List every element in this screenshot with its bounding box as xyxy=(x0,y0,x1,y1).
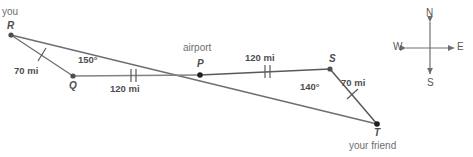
point-S xyxy=(327,66,332,71)
point-label-Q: Q xyxy=(69,81,77,91)
caption-you: you xyxy=(2,7,18,17)
compass-label-east: E xyxy=(457,42,464,52)
tick-mark-RQ xyxy=(38,48,46,61)
point-label-T: T xyxy=(374,128,380,138)
point-label-S: S xyxy=(329,54,336,64)
point-label-P: P xyxy=(197,59,204,69)
caption-airport: airport xyxy=(183,43,211,53)
point-R xyxy=(8,32,13,37)
measure-label-QP: 120 mi xyxy=(110,84,140,94)
point-Q xyxy=(70,73,75,78)
point-P xyxy=(197,72,203,78)
point-T xyxy=(374,121,380,127)
measure-label-ST: 70 mi xyxy=(341,78,365,88)
compass-label-south: S xyxy=(427,78,434,88)
compass-rose xyxy=(406,22,454,74)
point-label-R: R xyxy=(7,21,14,31)
measure-label-PS: 120 mi xyxy=(245,53,275,63)
compass-label-north: N xyxy=(426,8,433,18)
angle-label-S: 140° xyxy=(300,82,320,92)
angle-label-Q: 150° xyxy=(78,55,98,65)
diagram-canvas xyxy=(0,0,473,157)
compass-label-west: W xyxy=(393,42,402,52)
measure-label-RQ: 70 mi xyxy=(14,66,38,76)
geometry-diagram: R Q P S T you airport your friend 70 mi … xyxy=(0,0,473,157)
caption-your-friend: your friend xyxy=(349,141,396,151)
